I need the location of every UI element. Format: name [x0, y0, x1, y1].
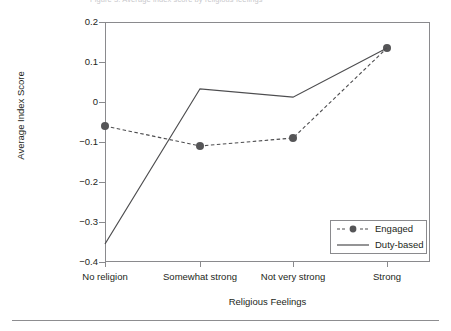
figure-bottom-divider [12, 320, 439, 321]
series-line-duty-based [105, 48, 387, 244]
legend-item-duty-based[interactable]: Duty-based [331, 237, 428, 253]
y-tick-mark [99, 102, 105, 103]
x-tick-mark [293, 262, 294, 267]
legend-swatch-dashed-marker [335, 221, 373, 237]
series-line-engaged [105, 48, 387, 146]
x-tick-label: Strong [332, 271, 442, 283]
y-tick-mark [99, 22, 105, 23]
x-tick-label: No religion [50, 271, 160, 283]
x-tick-mark [200, 262, 201, 267]
x-tick-mark [105, 262, 106, 267]
x-tick-mark [387, 262, 388, 267]
y-tick-mark [99, 222, 105, 223]
data-point-marker [289, 134, 297, 142]
y-tick-mark [99, 62, 105, 63]
figure-container: Figure 3. Average index score by religio… [0, 0, 451, 331]
data-point-marker [196, 142, 204, 150]
data-point-marker [101, 122, 109, 130]
legend-label-engaged: Engaged [375, 223, 413, 235]
y-tick-mark [99, 182, 105, 183]
chart-legend: Engaged Duty-based [330, 220, 427, 254]
legend-swatch-solid-line [335, 237, 373, 253]
legend-item-engaged[interactable]: Engaged [331, 221, 428, 237]
y-tick-mark [99, 142, 105, 143]
legend-label-duty-based: Duty-based [375, 239, 424, 251]
